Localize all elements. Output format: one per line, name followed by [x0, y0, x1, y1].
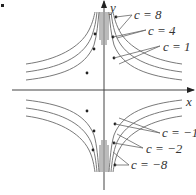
- curve-c1-left: [26, 12, 99, 80]
- curve-markers: [86, 16, 118, 167]
- label-c8: c = 8: [134, 7, 162, 22]
- x-axis-label: x: [185, 94, 192, 109]
- label-cm1: c = −1: [162, 125, 196, 140]
- curve-cm8-left: [26, 116, 95, 172]
- label-c4: c = 4: [148, 23, 176, 38]
- label-c1: c = 1: [163, 39, 191, 54]
- curve-c8-left: [26, 12, 95, 64]
- label-cm8: c = −8: [131, 157, 168, 172]
- curve-family-diagram: y x: [0, 0, 196, 195]
- curve-c4-left: [26, 12, 97, 72]
- label-cm2: c = −2: [146, 141, 183, 156]
- corner-dot: [1, 4, 4, 7]
